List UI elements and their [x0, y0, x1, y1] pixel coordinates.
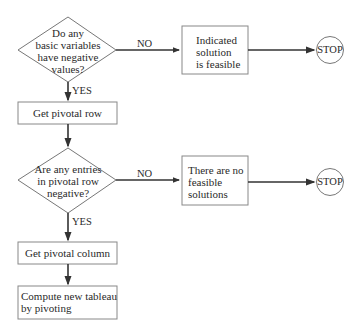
- decision1-line: Do any: [18, 27, 118, 39]
- feasible-line: Indicated: [196, 34, 248, 46]
- pivot-row-label: Get pivotal row: [18, 107, 117, 119]
- decision1-line: values?: [18, 63, 118, 75]
- stop2-label: STOP: [316, 176, 344, 188]
- no-feasible-line: solutions: [188, 188, 248, 200]
- pivot-col-label: Get pivotal column: [18, 247, 117, 259]
- decision1-line: have negative: [18, 51, 118, 63]
- decision2-line: Are any entries: [18, 163, 118, 175]
- no-feasible-line: There are no: [188, 164, 248, 176]
- compute-line: Compute new tableau: [21, 290, 117, 302]
- feasible-line: is feasible: [196, 58, 248, 70]
- d2-no-label: NO: [137, 168, 152, 179]
- no-feasible-line: feasible: [188, 176, 248, 188]
- decision2-text: Are any entries in pivotal row negative?: [18, 163, 118, 199]
- d2-yes-label: YES: [72, 216, 92, 227]
- stop1-label: STOP: [316, 44, 344, 56]
- d1-yes-label: YES: [72, 85, 92, 96]
- feasible-text: Indicated solution is feasible: [196, 34, 248, 70]
- compute-line: by pivoting: [21, 302, 117, 314]
- no-feasible-text: There are no feasible solutions: [188, 164, 248, 200]
- d1-no-label: NO: [137, 38, 152, 49]
- compute-text: Compute new tableau by pivoting: [21, 290, 117, 314]
- decision2-line: negative?: [18, 187, 118, 199]
- decision1-text: Do any basic variables have negative val…: [18, 27, 118, 75]
- decision2-line: in pivotal row: [18, 175, 118, 187]
- feasible-line: solution: [196, 46, 248, 58]
- decision1-line: basic variables: [18, 39, 118, 51]
